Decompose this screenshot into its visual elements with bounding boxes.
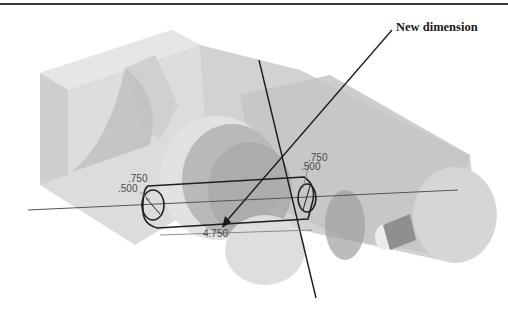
dimension-right-inner[interactable]: .500 — [301, 161, 320, 172]
dimension-left-inner[interactable]: .500 — [118, 183, 137, 194]
part-body — [40, 30, 497, 285]
dimension-slot-length[interactable]: 4.750 — [203, 228, 228, 239]
callout-new-dimension: New dimension — [396, 20, 478, 35]
cad-viewport[interactable] — [0, 0, 508, 318]
